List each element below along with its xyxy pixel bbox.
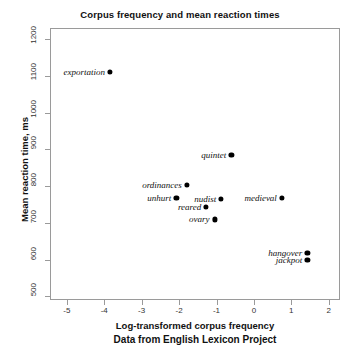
y-tick-label: 1000 [29,100,43,118]
y-tick-label-wrap: 600 [27,247,43,273]
point-label: medieval [244,193,279,203]
x-tick-label: 1 [279,306,303,315]
x-tick-label: -4 [92,306,116,315]
y-tick-label-wrap: 900 [27,136,43,162]
y-tick-label-wrap: 1200 [27,26,43,52]
x-tick-label: 2 [317,306,341,315]
x-tick-mark [179,300,180,305]
x-tick-mark [329,300,330,305]
y-tick-label: 800 [29,173,43,186]
x-tick-label: 0 [242,306,266,315]
y-tick-label: 700 [29,210,43,223]
x-tick-label: -3 [130,306,154,315]
x-tick-label: -5 [55,306,79,315]
point-labels-layer: exportationquintetordinancesunhurtnudist… [51,29,339,299]
y-tick-label-wrap: 1000 [27,100,43,126]
point-label: exportation [64,67,109,77]
y-tick-label-wrap: 700 [27,210,43,236]
y-tick-label-wrap: 500 [27,283,43,309]
point-label: unhurt [147,193,174,203]
x-tick-label: -1 [205,306,229,315]
scatter-plot-figure: Corpus frequency and mean reaction times… [0,0,360,362]
y-tick-label: 500 [29,283,43,296]
x-tick-mark [142,300,143,305]
y-tick-label: 900 [29,136,43,149]
point-label: ovary [189,214,213,224]
x-tick-mark [67,300,68,305]
x-tick-mark [217,300,218,305]
y-tick-label: 1100 [29,63,43,80]
point-label: quintet [201,150,229,160]
y-tick-label-wrap: 800 [27,173,43,199]
point-label: jackpot [276,255,306,265]
chart-title: Corpus frequency and mean reaction times [0,9,360,20]
point-label: reared [178,202,204,212]
x-axis-title: Log-transformed corpus frequency [50,320,340,331]
x-tick-mark [254,300,255,305]
x-tick-mark [104,300,105,305]
x-tick-mark [291,300,292,305]
plot-area: exportationquintetordinancesunhurtnudist… [50,28,340,300]
point-label: ordinances [142,180,185,190]
source-caption: Data from English Lexicon Project [50,334,340,345]
x-tick-label: -2 [167,306,191,315]
y-tick-label: 600 [29,247,43,260]
y-tick-label: 1200 [29,26,43,44]
y-tick-label-wrap: 1100 [27,63,43,89]
